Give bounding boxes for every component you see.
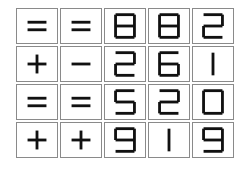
operator-cell-r3-c1[interactable] bbox=[16, 84, 58, 120]
digit-cell-r1-c5[interactable] bbox=[192, 8, 234, 44]
digit-cell-r3-c5[interactable] bbox=[192, 84, 234, 120]
operator-cell-r1-c2[interactable] bbox=[60, 8, 102, 44]
digit-9-glyph bbox=[193, 123, 233, 157]
digit-5-glyph bbox=[105, 85, 145, 119]
digit-2-glyph bbox=[149, 85, 189, 119]
digit-cell-r1-c4[interactable] bbox=[148, 8, 190, 44]
operator-cell-r3-c2[interactable] bbox=[60, 84, 102, 120]
digit-9-glyph bbox=[105, 123, 145, 157]
plus-icon bbox=[17, 123, 57, 157]
operator-cell-r2-c1[interactable] bbox=[16, 46, 58, 82]
digit-8-glyph bbox=[149, 9, 189, 43]
digit-8-glyph bbox=[105, 9, 145, 43]
equals-icon bbox=[61, 9, 101, 43]
digit-cell-r2-c5[interactable] bbox=[192, 46, 234, 82]
equals-icon bbox=[17, 9, 57, 43]
operator-cell-r4-c2[interactable] bbox=[60, 122, 102, 158]
digit-cell-r3-c3[interactable] bbox=[104, 84, 146, 120]
digit-cell-r1-c3[interactable] bbox=[104, 8, 146, 44]
plus-icon bbox=[61, 123, 101, 157]
equals-icon bbox=[61, 85, 101, 119]
digit-2-glyph bbox=[105, 47, 145, 81]
operator-cell-r1-c1[interactable] bbox=[16, 8, 58, 44]
digit-cell-r4-c5[interactable] bbox=[192, 122, 234, 158]
digit-1-glyph bbox=[193, 47, 233, 81]
puzzle-grid bbox=[16, 8, 234, 158]
digit-cell-r2-c4[interactable] bbox=[148, 46, 190, 82]
plus-icon bbox=[17, 47, 57, 81]
digit-cell-r4-c4[interactable] bbox=[148, 122, 190, 158]
digit-cell-r4-c3[interactable] bbox=[104, 122, 146, 158]
minus-icon bbox=[61, 47, 101, 81]
digit-1-glyph bbox=[149, 123, 189, 157]
operator-cell-r2-c2[interactable] bbox=[60, 46, 102, 82]
digit-0-glyph bbox=[193, 85, 233, 119]
digit-cell-r2-c3[interactable] bbox=[104, 46, 146, 82]
digit-2-glyph bbox=[193, 9, 233, 43]
digit-cell-r3-c4[interactable] bbox=[148, 84, 190, 120]
equals-icon bbox=[17, 85, 57, 119]
digit-6-glyph bbox=[149, 47, 189, 81]
operator-cell-r4-c1[interactable] bbox=[16, 122, 58, 158]
